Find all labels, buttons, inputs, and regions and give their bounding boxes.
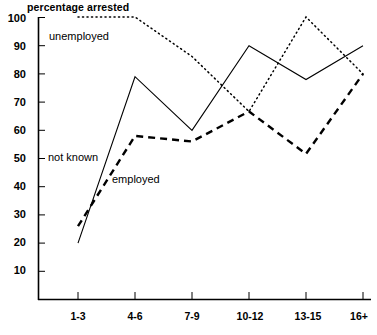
x-axis-ticks: [78, 292, 363, 299]
chart-plot-area: [0, 0, 377, 335]
series-line-employed: [78, 74, 363, 226]
line-chart: percentage arrested 100 90 80 70 60 50 4…: [0, 0, 377, 335]
series-line-unemployed: [78, 17, 363, 112]
series-line-not-known: [78, 46, 363, 243]
